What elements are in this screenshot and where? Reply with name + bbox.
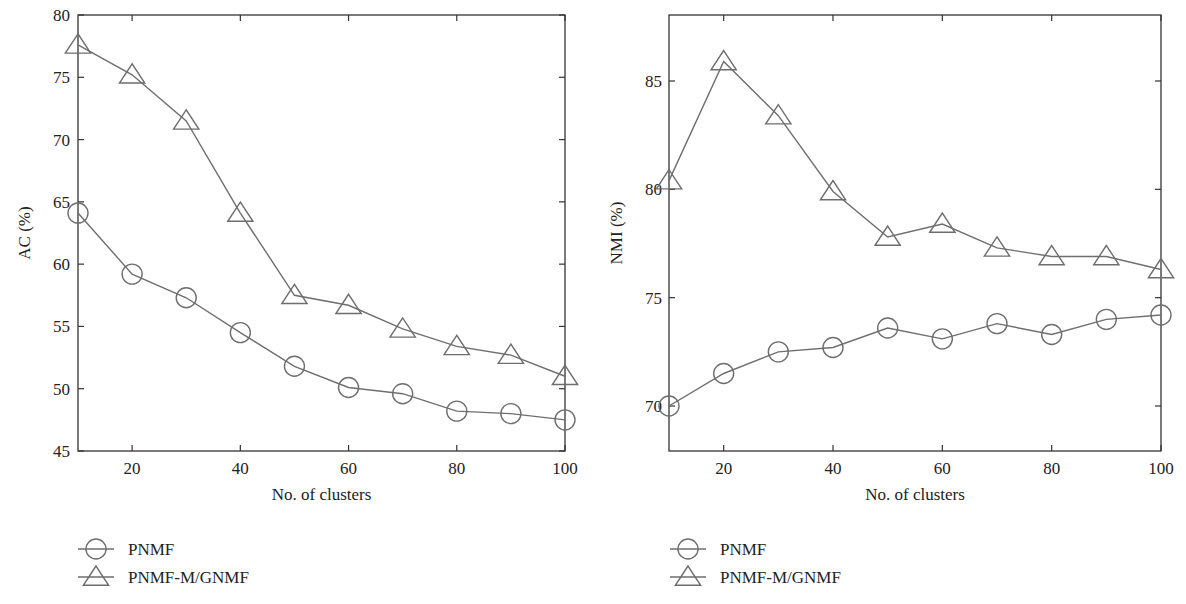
y-tick-label: 45 bbox=[53, 442, 70, 461]
series-line bbox=[669, 62, 1161, 270]
data-point-triangle-marker bbox=[119, 64, 144, 83]
y-tick-label: 75 bbox=[645, 289, 662, 308]
y-tick-label: 60 bbox=[53, 255, 70, 274]
x-tick-label: 40 bbox=[232, 459, 249, 478]
ac-chart: 204060801004550556065707580No. of cluste… bbox=[15, 6, 578, 504]
x-tick-label: 100 bbox=[552, 459, 578, 478]
legend-label: PNMF-M/GNMF bbox=[128, 568, 249, 587]
y-tick-label: 65 bbox=[53, 193, 70, 212]
data-point-triangle-marker bbox=[390, 318, 415, 337]
y-tick-label: 55 bbox=[53, 317, 70, 336]
ac-chart-legend: PNMFPNMF-M/GNMF bbox=[78, 539, 249, 587]
series-line bbox=[78, 45, 565, 376]
legend-item-pnmf-m-gnmf: PNMF-M/GNMF bbox=[670, 566, 841, 587]
series-pnmf-m-gnmf bbox=[65, 34, 577, 385]
plot-frame bbox=[78, 15, 565, 451]
x-tick-label: 80 bbox=[1043, 459, 1060, 478]
figure: 204060801004550556065707580No. of cluste… bbox=[0, 0, 1186, 604]
series-pnmf-m-gnmf bbox=[656, 51, 1173, 278]
x-tick-label: 60 bbox=[340, 459, 357, 478]
x-tick-label: 80 bbox=[448, 459, 465, 478]
x-tick-label: 60 bbox=[934, 459, 951, 478]
x-tick-label: 100 bbox=[1148, 459, 1174, 478]
y-tick-label: 80 bbox=[53, 6, 70, 25]
series-pnmf bbox=[659, 305, 1171, 416]
legend-item-pnmf: PNMF bbox=[670, 539, 766, 559]
x-tick-label: 20 bbox=[715, 459, 732, 478]
x-axis-title: No. of clusters bbox=[272, 485, 372, 504]
legend-triangle-marker bbox=[83, 566, 108, 585]
data-point-triangle-marker bbox=[711, 51, 736, 70]
y-tick-label: 75 bbox=[53, 68, 70, 87]
y-axis-title: NMI (%) bbox=[607, 202, 626, 265]
legend-label: PNMF bbox=[128, 540, 174, 559]
legend-item-pnmf: PNMF bbox=[78, 539, 174, 559]
data-point-triangle-marker bbox=[444, 335, 469, 354]
nmi-chart-legend: PNMFPNMF-M/GNMF bbox=[670, 539, 841, 587]
x-tick-label: 20 bbox=[124, 459, 141, 478]
legend-label: PNMF-M/GNMF bbox=[720, 568, 841, 587]
legend-item-pnmf-m-gnmf: PNMF-M/GNMF bbox=[78, 566, 249, 587]
series-line bbox=[669, 315, 1161, 406]
data-point-triangle-marker bbox=[1094, 246, 1119, 265]
series-line bbox=[78, 213, 565, 420]
x-axis-title: No. of clusters bbox=[865, 485, 965, 504]
legend-label: PNMF bbox=[720, 540, 766, 559]
nmi-chart: 2040608010070758085No. of clustersNMI (%… bbox=[607, 15, 1174, 504]
y-tick-label: 85 bbox=[645, 72, 662, 91]
legend-triangle-marker bbox=[675, 566, 700, 585]
y-tick-label: 70 bbox=[53, 131, 70, 150]
y-axis-title: AC (%) bbox=[15, 206, 34, 259]
data-point-triangle-marker bbox=[984, 237, 1009, 256]
data-point-triangle-marker bbox=[820, 181, 845, 200]
x-tick-label: 40 bbox=[825, 459, 842, 478]
data-point-triangle-marker bbox=[930, 213, 955, 232]
data-point-triangle-marker bbox=[282, 284, 307, 303]
series-pnmf bbox=[68, 203, 575, 430]
y-tick-label: 50 bbox=[53, 380, 70, 399]
